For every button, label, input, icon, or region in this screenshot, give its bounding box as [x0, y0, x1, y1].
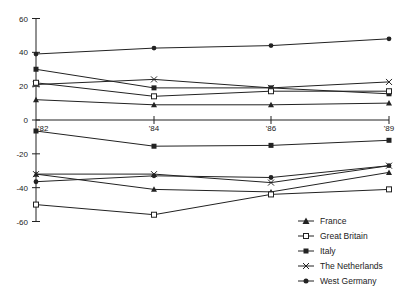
- y-tick-label: 20: [19, 82, 28, 91]
- legend-item-italy: Italy: [298, 244, 383, 259]
- series-france: [33, 97, 392, 108]
- x-tick-label: '86: [266, 124, 277, 133]
- legend-label: France: [320, 216, 346, 226]
- series-great-britain: [34, 187, 392, 217]
- filled-square-marker-icon: [34, 67, 39, 72]
- open-square-marker-icon: [269, 192, 274, 197]
- open-square-marker-icon: [152, 94, 157, 99]
- filled-circle-marker-icon: [152, 173, 157, 178]
- filled-square-marker-icon: [269, 143, 274, 148]
- filled-circle-marker-icon: [34, 179, 39, 184]
- x-marker-icon: [298, 261, 314, 271]
- filled-square-marker-icon: [34, 128, 39, 133]
- series-lines: [33, 36, 392, 217]
- series-line: [36, 189, 389, 214]
- series-line: [36, 172, 389, 192]
- y-tick-label: 0: [24, 116, 29, 125]
- open-square-marker-icon: [34, 202, 39, 207]
- x-tick-label: '89: [384, 124, 395, 133]
- open-square-marker-icon: [269, 89, 274, 94]
- triangle-marker-icon: [298, 216, 314, 226]
- legend-label: Italy: [320, 246, 336, 256]
- series-line: [36, 79, 389, 88]
- legend-item-great-britain: Great Britain: [298, 229, 383, 244]
- series-line: [36, 131, 389, 146]
- open-square-marker-icon: [34, 80, 39, 85]
- open-square-marker-icon: [152, 212, 157, 217]
- x-tick-label: '84: [149, 124, 160, 133]
- series-line: [36, 100, 389, 105]
- series-west-germany: [34, 36, 392, 56]
- legend-item-france: France: [298, 214, 383, 229]
- series-italy: [34, 128, 392, 148]
- series-line: [36, 69, 389, 94]
- legend: France Great Britain Italy The Netherlan…: [298, 214, 383, 288]
- triangle-marker-icon: [386, 169, 392, 175]
- filled-square-marker-icon: [152, 144, 157, 149]
- open-square-marker-icon: [298, 231, 314, 241]
- filled-circle-marker-icon: [387, 36, 392, 41]
- y-tick-label: 40: [19, 48, 28, 57]
- y-tick-label: -20: [16, 150, 28, 159]
- axes: 6040200-20-40-60'82'84'86'89: [16, 15, 394, 227]
- series-great-britain: [34, 80, 392, 99]
- y-tick-label: 60: [19, 15, 28, 24]
- legend-label: Great Britain: [320, 231, 368, 241]
- filled-square-marker-icon: [387, 138, 392, 143]
- series-the-netherlands: [33, 163, 392, 186]
- series-italy: [34, 67, 392, 97]
- series-line: [36, 39, 389, 54]
- filled-circle-marker-icon: [34, 52, 39, 57]
- legend-item-west-germany: West Germany: [298, 273, 383, 288]
- y-tick-label: -40: [16, 184, 28, 193]
- filled-circle-marker-icon: [387, 163, 392, 168]
- open-square-marker-icon: [387, 89, 392, 94]
- legend-label: West Germany: [320, 276, 377, 286]
- filled-circle-marker-icon: [269, 43, 274, 48]
- series-line: [36, 166, 389, 183]
- filled-circle-marker-icon: [298, 276, 314, 286]
- filled-square-marker-icon: [152, 85, 157, 90]
- y-tick-label: -60: [16, 218, 28, 227]
- legend-label: The Netherlands: [320, 261, 383, 271]
- legend-item-the-netherlands: The Netherlands: [298, 258, 383, 273]
- filled-square-marker-icon: [298, 246, 314, 256]
- filled-circle-marker-icon: [269, 175, 274, 180]
- open-square-marker-icon: [387, 187, 392, 192]
- filled-circle-marker-icon: [152, 46, 157, 51]
